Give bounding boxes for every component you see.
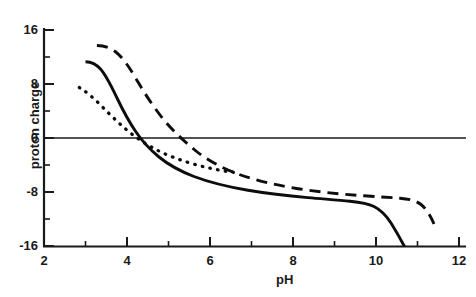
- x-tick-label-4: 4: [107, 254, 147, 267]
- x-tick-label-10: 10: [356, 254, 396, 267]
- y-axis-title: proton charge: [27, 46, 42, 206]
- chart-figure: 16 8 0 -8 -16 2 4 6 8 10 12 proton charg…: [0, 0, 476, 297]
- proton-charge-vs-ph-plot: [0, 0, 476, 297]
- y-tick-label-neg16: -16: [0, 239, 38, 252]
- x-tick-label-2: 2: [24, 254, 64, 267]
- x-tick-label-12: 12: [439, 254, 476, 267]
- solid-curve: [86, 62, 405, 247]
- x-tick-label-6: 6: [190, 254, 230, 267]
- x-tick-label-8: 8: [273, 254, 313, 267]
- dashed-curve: [97, 46, 434, 225]
- y-tick-label-16: 16: [0, 23, 38, 36]
- x-axis-title: pH: [276, 272, 293, 287]
- x-minor-ticks: [86, 241, 418, 246]
